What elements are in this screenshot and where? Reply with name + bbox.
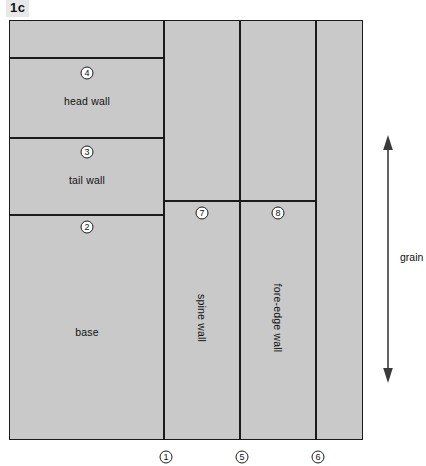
panel-left-tall-strip [164, 20, 240, 201]
panel-top-strip [9, 20, 164, 58]
panel-spine-wall-label: spine wall [196, 294, 208, 342]
callout-1: 1 [160, 451, 173, 464]
callout-4: 4 [81, 67, 94, 80]
callout-2: 2 [81, 221, 94, 234]
panel-tail-wall-label: tail wall [69, 174, 105, 186]
callout-3: 3 [81, 146, 94, 159]
callout-5: 5 [236, 451, 249, 464]
panel-head-wall-label: head wall [64, 95, 110, 107]
panel-base-label: base [75, 326, 99, 338]
panel-right-strip [316, 20, 363, 440]
callout-6: 6 [312, 451, 325, 464]
panel-fore-edge-wall-label: fore-edge wall [272, 284, 284, 353]
figure-container: 1c head wall 4 tail wall 3 base 2 spine … [0, 0, 426, 466]
callout-7: 7 [196, 207, 209, 220]
panel-fore-edge-upper [240, 20, 316, 201]
grain-direction-arrow [378, 134, 398, 384]
callout-8: 8 [272, 207, 285, 220]
grain-label: grain [400, 251, 423, 263]
figure-label: 1c [6, 0, 29, 17]
